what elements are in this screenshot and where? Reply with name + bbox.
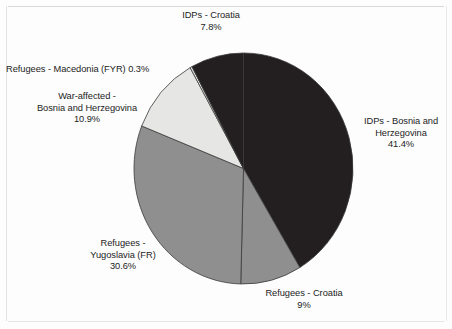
slice-label-refugees-yugoslavia: Refugees - Yugoslavia (FR) 30.6% <box>58 238 188 273</box>
slice-label-idps-bosnia: IDPs - Bosnia and Herzegovina 41.4% <box>352 116 450 151</box>
figure-border-right <box>446 6 447 321</box>
slice-label-refugees-croatia: Refugees - Croatia 9% <box>234 288 374 311</box>
slice-label-idps-croatia: IDPs - Croatia 7.8% <box>146 10 276 33</box>
slice-label-refugees-macedonia: Refugees - Macedonia (FYR) 0.3% <box>6 64 186 76</box>
figure-border-top <box>8 6 444 7</box>
figure-border-left <box>6 6 7 321</box>
figure-border-bottom <box>8 321 444 322</box>
slice-label-war-affected-bosnia: War-affected - Bosnia and Herzegovina 10… <box>12 91 162 126</box>
pie-chart-figure: IDPs - Croatia 7.8% Refugees - Macedonia… <box>0 0 452 329</box>
